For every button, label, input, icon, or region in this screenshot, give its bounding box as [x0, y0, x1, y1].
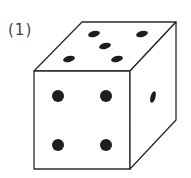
pip [100, 90, 112, 102]
pip [100, 139, 112, 151]
die-figure [0, 0, 191, 178]
die-front-face [34, 71, 130, 169]
pip [52, 139, 64, 151]
pip [52, 90, 64, 102]
